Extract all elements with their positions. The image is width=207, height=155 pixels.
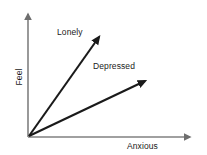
vector-label-depressed: Depressed bbox=[93, 61, 135, 71]
vector-diagram: Lonely Depressed Anxious Feel bbox=[0, 0, 207, 155]
vector-depressed bbox=[29, 81, 145, 136]
diagram-canvas bbox=[0, 0, 207, 155]
vector-lonely bbox=[29, 37, 99, 136]
y-axis-label: Feel bbox=[14, 69, 24, 86]
x-axis-label: Anxious bbox=[127, 141, 158, 151]
vector-label-lonely: Lonely bbox=[57, 27, 83, 37]
